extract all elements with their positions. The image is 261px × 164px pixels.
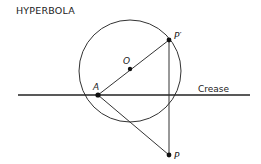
- point-p-prime-label: P′: [174, 31, 181, 41]
- point-p-marker: [167, 153, 172, 158]
- point-a-marker: [95, 92, 100, 97]
- segment-a-p-prime: [98, 40, 169, 95]
- point-p-prime-marker: [167, 38, 172, 43]
- segment-a-p: [98, 95, 169, 155]
- point-o-marker: [128, 67, 132, 71]
- crease-label: Crease: [198, 84, 230, 94]
- point-a-label: A: [92, 82, 99, 92]
- point-p-label: P: [174, 151, 180, 161]
- hyperbola-construction-diagram: O A P′ P Crease: [0, 0, 261, 164]
- point-o-label: O: [123, 56, 130, 66]
